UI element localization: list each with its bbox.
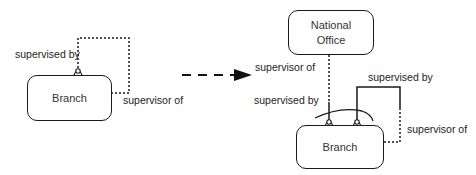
label-supervised-by-left: supervised by <box>15 48 80 60</box>
entity-national-office[interactable]: National Office <box>288 10 374 55</box>
label-supervisor-of-left: supervisor of <box>123 94 183 106</box>
entity-national-office-line2: Office <box>317 33 346 48</box>
entity-branch-right[interactable]: Branch <box>296 125 384 169</box>
transform-arrow <box>182 69 252 81</box>
entity-branch-left[interactable]: Branch <box>27 75 112 121</box>
label-supervisor-of-national: supervisor of <box>255 61 315 73</box>
label-supervised-by-branch: supervised by <box>254 94 319 106</box>
entity-national-office-line1: National <box>311 18 351 33</box>
label-supervisor-of-self: supervisor of <box>407 123 467 135</box>
label-supervised-by-self: supervised by <box>368 71 433 83</box>
entity-branch-left-label: Branch <box>52 91 87 106</box>
entity-branch-right-label: Branch <box>323 140 358 155</box>
